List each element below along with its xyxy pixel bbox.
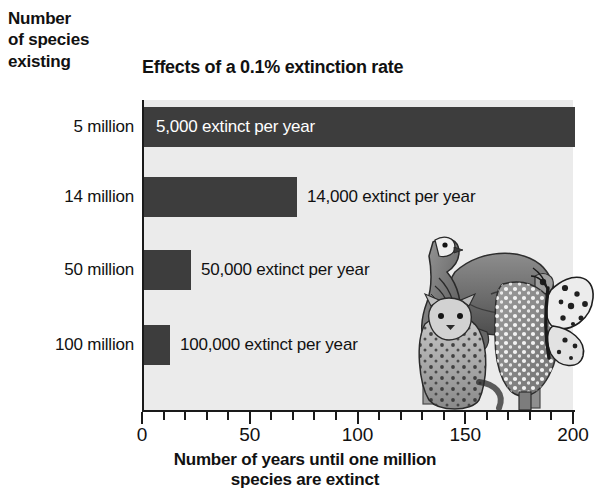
x-tick-label-100: 100 [342, 424, 374, 446]
x-axis-minor-tick-120 [400, 412, 402, 420]
y-tick-label-0: 5 million [4, 107, 134, 147]
x-axis-major-tick-50 [249, 412, 251, 424]
bar-14-million [144, 177, 297, 217]
chart-title: Effects of a 0.1% extinction rate [142, 57, 403, 78]
y-tick-label-2: 50 million [4, 250, 134, 290]
x-axis-minor-tick-60 [270, 412, 272, 420]
x-axis-major-tick-100 [357, 412, 359, 424]
x-axis-minor-tick-30 [206, 412, 208, 420]
x-axis-title-line-1: Number of years until one million [0, 450, 610, 470]
x-axis-minor-tick-40 [227, 412, 229, 420]
bar-label-14-million: 14,000 extinct per year [307, 177, 475, 217]
bar-100-million [144, 325, 170, 365]
y-tick-label-1: 14 million [4, 177, 134, 217]
bar-label-50-million: 50,000 extinct per year [201, 250, 369, 290]
y-tick-label-3: 100 million [4, 325, 134, 365]
x-tick-label-0: 0 [137, 424, 148, 446]
x-axis-major-tick-0 [141, 412, 143, 424]
chart-figure: Number of species existing Effects of a … [0, 0, 610, 502]
x-axis-minor-tick-160 [486, 412, 488, 420]
x-tick-label-150: 150 [449, 424, 481, 446]
x-axis-title: Number of years until one million specie… [0, 450, 610, 491]
x-axis-minor-tick-180 [529, 412, 531, 420]
x-tick-label-50: 50 [239, 424, 260, 446]
x-axis-minor-tick-190 [550, 412, 552, 420]
y-axis-heading-line-2: of species [8, 29, 140, 50]
bar-label-5-million: 5,000 extinct per year [156, 107, 315, 147]
x-axis-minor-tick-140 [443, 412, 445, 420]
x-axis-minor-tick-170 [507, 412, 509, 420]
x-axis-major-tick-150 [464, 412, 466, 424]
bar-label-100-million: 100,000 extinct per year [180, 325, 358, 365]
plot-area: 5,000 extinct per year 14,000 extinct pe… [142, 100, 573, 410]
bar-50-million [144, 250, 191, 290]
x-axis-minor-tick-110 [378, 412, 380, 420]
x-axis-minor-tick-80 [313, 412, 315, 420]
y-axis-heading-line-1: Number [8, 8, 140, 29]
x-axis-minor-tick-90 [335, 412, 337, 420]
x-axis-minor-tick-20 [184, 412, 186, 420]
x-axis-major-tick-200 [572, 412, 574, 424]
x-axis-minor-tick-10 [163, 412, 165, 420]
x-axis-title-line-2: species are extinct [0, 470, 610, 490]
x-axis-minor-tick-70 [292, 412, 294, 420]
y-axis-heading-line-3: existing [8, 51, 140, 72]
y-axis-heading: Number of species existing [8, 8, 140, 72]
x-axis-minor-tick-130 [421, 412, 423, 420]
x-tick-label-200: 200 [557, 424, 589, 446]
